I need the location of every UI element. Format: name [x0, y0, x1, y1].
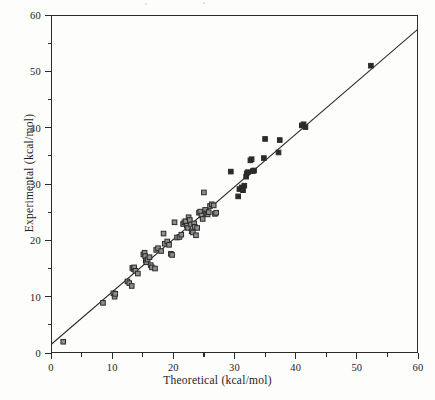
scatter-point: [202, 190, 207, 195]
y-axis-minor-tick: [48, 212, 52, 213]
y-axis-minor-tick: [48, 155, 52, 156]
scatter-point: [153, 266, 158, 271]
y-axis-tick-label: 0: [17, 348, 41, 359]
scatter-plot-svg: [51, 15, 418, 353]
scatter-point: [147, 255, 152, 260]
x-axis-tick-label: 10: [107, 362, 118, 373]
scatter-point: [172, 220, 177, 225]
scan-artifact: [203, 2, 205, 4]
scatter-point: [263, 137, 268, 142]
scatter-point: [211, 203, 216, 208]
x-axis-tick: [112, 353, 113, 359]
scatter-point: [170, 253, 175, 258]
x-axis-minor-tick: [142, 353, 143, 357]
x-axis-tick-label: 50: [351, 362, 362, 373]
y-axis-tick: [45, 15, 51, 16]
y-axis-tick: [45, 240, 51, 241]
scatter-point: [136, 271, 141, 276]
scatter-point: [214, 210, 219, 215]
x-axis-tick-label: 60: [413, 362, 424, 373]
scatter-point: [195, 226, 200, 231]
x-axis-minor-tick: [265, 353, 266, 357]
scatter-point: [246, 170, 251, 175]
scatter-point: [276, 150, 281, 155]
y-axis-tick: [45, 296, 51, 297]
scatter-point: [61, 339, 66, 344]
scatter-point: [167, 243, 172, 248]
x-axis-tick: [295, 353, 296, 359]
x-axis-tick-label: 30: [229, 362, 240, 373]
x-axis-minor-tick: [81, 353, 82, 357]
scatter-point: [277, 138, 282, 143]
scatter-point: [262, 156, 267, 161]
y-axis-minor-tick: [48, 43, 52, 44]
scatter-point: [179, 232, 184, 237]
scatter-point: [207, 210, 212, 215]
scatter-point: [236, 194, 241, 199]
scatter-point: [303, 125, 308, 130]
y-axis-tick-label: 60: [17, 10, 41, 21]
x-axis-tick: [173, 353, 174, 359]
fit-line: [51, 29, 418, 344]
y-axis-tick: [45, 353, 51, 354]
y-axis-tick: [45, 71, 51, 72]
x-axis-tick: [418, 353, 419, 359]
scatter-point: [369, 63, 374, 68]
y-axis-tick: [45, 127, 51, 128]
x-axis-tick: [51, 353, 52, 359]
y-axis-tick: [45, 184, 51, 185]
scatter-point: [101, 301, 106, 306]
scatter-point: [161, 231, 166, 236]
y-axis-minor-tick: [48, 268, 52, 269]
x-axis-tick-label: 20: [168, 362, 179, 373]
scan-artifact: [145, 3, 147, 5]
scatter-point: [159, 249, 164, 254]
y-axis-minor-tick: [48, 324, 52, 325]
scatter-point: [229, 169, 234, 174]
scatter-point: [200, 217, 205, 222]
x-axis-minor-tick: [387, 353, 388, 357]
scatter-point: [129, 284, 134, 289]
scatter-point: [194, 233, 199, 238]
scatter-point: [242, 183, 247, 188]
figure-container: 01020304050600102030405060 Theoretical (…: [0, 0, 435, 400]
scatter-point: [249, 157, 254, 162]
scatter-point: [241, 188, 246, 193]
x-axis-tick-label: 0: [48, 362, 53, 373]
y-axis-minor-tick: [48, 99, 52, 100]
y-axis-title: Experimental (kcal/mol): [23, 48, 35, 298]
x-axis-minor-tick: [203, 353, 204, 357]
x-axis-tick: [234, 353, 235, 359]
x-axis-tick-label: 40: [290, 362, 301, 373]
plot-data-area: [51, 15, 418, 353]
x-axis-minor-tick: [326, 353, 327, 357]
x-axis-title: Theoretical (kcal/mol): [0, 374, 435, 386]
scatter-point: [113, 292, 118, 297]
x-axis-tick: [356, 353, 357, 359]
scatter-point: [252, 168, 257, 173]
